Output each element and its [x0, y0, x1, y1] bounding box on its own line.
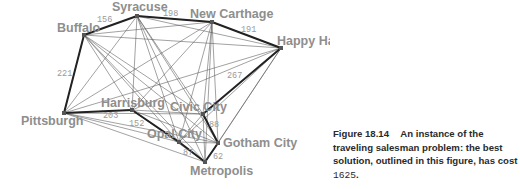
graph-edge	[179, 142, 218, 143]
tsp-graph: 156198191267886287152203221 SyracuseBuff…	[0, 0, 330, 189]
city-label-pittsburgh: Pittsburgh	[21, 114, 84, 128]
edge-cost-label: 191	[241, 25, 256, 35]
caption-end: .	[356, 169, 359, 180]
city-label-gotham-city: Gotham City	[223, 136, 297, 150]
city-label-harrisburg: Harrisburg	[101, 96, 165, 110]
edge-cost-label: 152	[129, 119, 144, 129]
edge-cost-label: 87	[183, 148, 193, 158]
figure-caption: Figure 18.14 An instance of the travelin…	[333, 127, 518, 182]
edge-cost-label: 62	[213, 152, 223, 162]
city-label-civic-city: Civic City	[170, 100, 227, 114]
edge-cost-label: 267	[227, 71, 242, 81]
city-label-opal-city: Opal City	[147, 127, 202, 141]
figure-number: Figure 18.14	[333, 128, 389, 139]
caption-cost: 1625	[333, 170, 356, 181]
tour-edge	[64, 110, 132, 113]
gotham-city-node	[216, 141, 220, 145]
city-label-new-carthage: New Carthage	[190, 7, 273, 21]
city-label-syracuse: Syracuse	[112, 0, 168, 14]
city-label-metropolis: Metropolis	[190, 164, 253, 178]
syracuse-node	[135, 14, 139, 18]
city-labels: SyracuseBuffaloNew CarthageHappy HarborP…	[21, 0, 330, 178]
city-label-buffalo: Buffalo	[57, 21, 100, 35]
edge-cost-label: 203	[103, 111, 118, 121]
edge-cost-label: 221	[57, 69, 72, 79]
edge-cost-label: 88	[209, 120, 219, 130]
city-label-happy-harbor: Happy Harbor	[277, 34, 330, 48]
